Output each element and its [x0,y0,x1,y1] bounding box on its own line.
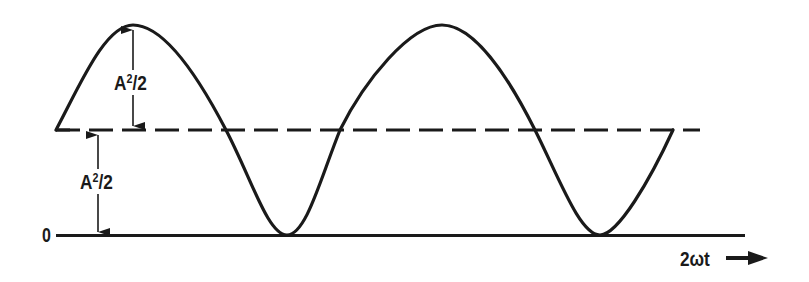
waveform-svg [0,0,809,282]
upper-amplitude-label: A2/2 [114,70,147,95]
zero-label: 0 [42,225,51,245]
waveform-diagram: A2/2 A2/2 0 2ωt [0,0,809,282]
x-axis-label: 2ωt [680,248,710,269]
x-axis-arrow-icon [726,251,768,265]
lower-amplitude-label: A2/2 [80,169,113,194]
